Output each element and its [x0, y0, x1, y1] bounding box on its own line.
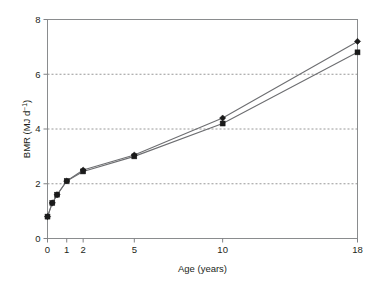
- data-point-1-0: [45, 214, 50, 219]
- y-tick-label-6: 6: [35, 69, 40, 80]
- data-point-1-2: [55, 192, 60, 197]
- x-axis-label: Age (years): [178, 263, 227, 274]
- data-point-1-7: [355, 50, 360, 55]
- data-point-1-4: [81, 169, 86, 174]
- data-point-1-1: [50, 200, 55, 205]
- data-point-1-6: [220, 121, 225, 126]
- x-tick-label-5: 5: [132, 244, 137, 255]
- y-tick-label-2: 2: [35, 178, 40, 189]
- y-tick-label-4: 4: [35, 123, 40, 134]
- x-tick-label-2: 2: [81, 244, 86, 255]
- data-point-1-3: [64, 179, 69, 184]
- x-tick-label-0: 0: [45, 244, 50, 255]
- x-tick-label-1: 1: [64, 244, 69, 255]
- y-tick-label-8: 8: [35, 14, 40, 25]
- bmr-age-line-chart: 02468 01251018 Age (years) BMR (MJ d−1): [0, 0, 379, 284]
- data-point-1-5: [132, 154, 137, 159]
- y-axis-label-tail: ): [21, 100, 32, 103]
- x-tick-label-18: 18: [352, 244, 363, 255]
- y-tick-label-0: 0: [35, 233, 40, 244]
- x-tick-label-10: 10: [217, 244, 228, 255]
- chart-background: [0, 0, 379, 284]
- y-axis-label-main: BMR (MJ d: [21, 111, 32, 159]
